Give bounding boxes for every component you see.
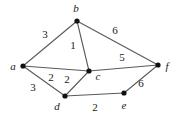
graph-vertex-a xyxy=(20,63,25,68)
graph-canvas xyxy=(0,0,174,118)
graph-vertex-e xyxy=(121,90,126,95)
graph-edge-de xyxy=(65,93,124,96)
edge-weight-ef: 6 xyxy=(138,78,144,89)
vertex-label-d: d xyxy=(54,101,60,112)
graph-edge-ab xyxy=(23,21,77,66)
edge-weight-de: 2 xyxy=(92,102,98,113)
vertex-label-f: f xyxy=(165,61,168,72)
graph-edge-ac xyxy=(23,66,89,71)
graph-vertex-c xyxy=(86,68,91,73)
edge-weight-cd: 2 xyxy=(64,74,70,85)
edge-weight-ac: 2 xyxy=(48,72,54,83)
vertex-label-a: a xyxy=(10,61,16,72)
vertex-label-e: e xyxy=(122,100,127,111)
graph-vertex-b xyxy=(74,18,79,23)
graph-edge-bc xyxy=(77,21,89,71)
edge-weight-cf: 5 xyxy=(119,52,125,63)
edge-weight-ab: 3 xyxy=(42,29,48,40)
vertex-label-b: b xyxy=(73,3,79,14)
graph-vertex-f xyxy=(155,62,160,67)
edge-weight-ad: 3 xyxy=(30,82,36,93)
graph-vertex-d xyxy=(62,93,67,98)
graph-figure: 316223526abcdef xyxy=(0,0,174,118)
edge-weight-bf: 6 xyxy=(112,25,118,36)
edge-weight-bc: 1 xyxy=(70,40,76,51)
vertex-label-c: c xyxy=(96,71,101,82)
